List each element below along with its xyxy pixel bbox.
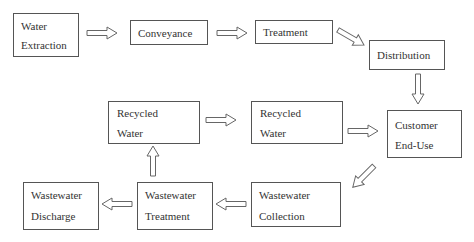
arrow-extraction-to-conveyance — [87, 27, 117, 39]
node-label-line-1: Water — [21, 21, 47, 32]
arrow-treatment-to-recycled-left — [147, 146, 159, 176]
node-label-line-2: Water — [260, 128, 286, 139]
node-label-line-2: Water — [117, 128, 143, 139]
arrow-conveyance-to-treatment — [217, 27, 247, 39]
node-label-line-2: Collection — [259, 211, 305, 222]
node-recycled-water-left: Recycled Water — [108, 101, 200, 144]
node-label-line-2: End-Use — [395, 140, 434, 151]
node-label-line-2: Discharge — [31, 211, 75, 222]
node-label-line-1: Conveyance — [138, 28, 192, 39]
node-label-line-1: Distribution — [377, 50, 430, 61]
node-label-line-1: Wastewater — [31, 190, 82, 201]
node-wastewater-discharge: Wastewater Discharge — [23, 182, 99, 230]
arrow-treatment-to-distribution — [335, 25, 367, 50]
arrow-recycled-right-to-customer — [348, 125, 378, 137]
arrow-treatment-to-discharge — [102, 198, 132, 210]
node-label-line-1: Wastewater — [259, 190, 310, 201]
node-label-line-2: Extraction — [21, 40, 67, 51]
node-conveyance: Conveyance — [130, 20, 208, 45]
node-wastewater-treatment: Wastewater Treatment — [137, 182, 213, 230]
node-distribution: Distribution — [369, 40, 445, 70]
node-label-line-2: Treatment — [145, 211, 190, 222]
arrow-customer-to-collection — [349, 162, 379, 192]
node-label-line-1: Customer — [395, 120, 438, 131]
node-water-extraction: Water Extraction — [13, 13, 79, 57]
node-label-line-1: Recycled — [260, 108, 301, 119]
arrow-collection-to-treatment — [216, 198, 246, 210]
node-wastewater-collection: Wastewater Collection — [251, 182, 341, 227]
node-label-line-1: Recycled — [117, 108, 158, 119]
arrow-distribution-to-customer — [412, 74, 424, 104]
node-recycled-water-right: Recycled Water — [251, 101, 343, 144]
arrow-recycled-left-to-right — [206, 114, 236, 126]
node-customer-end-use: Customer End-Use — [387, 110, 462, 158]
node-label-line-1: Wastewater — [145, 190, 196, 201]
node-treatment: Treatment — [255, 20, 333, 44]
node-label-line-1: Treatment — [263, 27, 308, 38]
